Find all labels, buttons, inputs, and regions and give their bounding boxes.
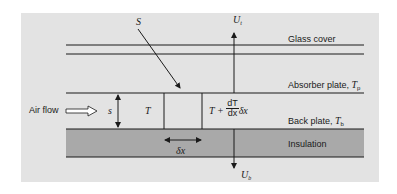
bottom-loss-subscript: b [248, 175, 251, 181]
derivative-denominator: dx [226, 109, 239, 118]
top-loss-subscript: t [240, 20, 242, 26]
insulation-label: Insulation [288, 140, 327, 149]
back-plate-subscript: b [341, 121, 344, 127]
derivative-suffix: δx [239, 105, 248, 116]
outlet-temperature-label: T + dT dx δx [209, 99, 248, 118]
inlet-temperature-label: T [145, 106, 151, 116]
air-flow-label: Air flow [29, 106, 59, 115]
element-width-label: δx [176, 146, 185, 156]
absorber-plate-label: Absorber plate, Tp [288, 80, 360, 91]
air-flow-arrow-icon [66, 106, 97, 116]
absorber-subscript: p [357, 85, 360, 91]
back-plate-text: Back plate, [288, 116, 335, 126]
solar-radiation-label: S [136, 17, 141, 27]
glass-cover-label: Glass cover [288, 35, 336, 44]
outlet-prefix: T + [209, 105, 224, 116]
absorber-text: Absorber plate, [288, 80, 352, 90]
bottom-loss-label: Ub [241, 170, 251, 181]
gap-label: s [108, 106, 112, 116]
derivative-fraction: dT dx [226, 99, 239, 118]
solar-radiation-arrow [138, 29, 180, 88]
collector-diagram [0, 0, 397, 194]
top-loss-label: Ut [233, 15, 242, 26]
back-plate-label: Back plate, Tb [288, 116, 344, 127]
